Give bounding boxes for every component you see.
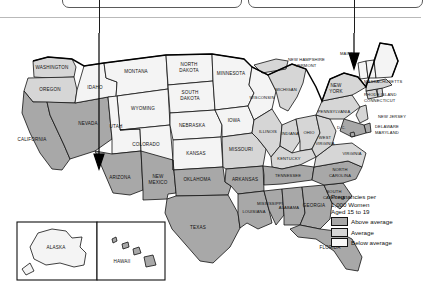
label-west-virginia-2: VIRGINIA: [315, 141, 334, 146]
label-idaho: IDAHO: [87, 85, 103, 90]
label-new-hampshire: NEW HAMPSHIRE: [288, 57, 325, 62]
legend-label-average: Average: [351, 229, 374, 236]
label-maine: MAINE: [340, 51, 354, 56]
callout-box-left[interactable]: [62, 0, 242, 8]
label-hawaii: HAWAII: [114, 259, 131, 264]
label-north-carolina-1: NORTH: [332, 167, 347, 172]
label-california: CALIFORNIA: [17, 137, 47, 142]
label-new-jersey: NEW JERSEY: [378, 114, 406, 119]
label-nevada: NEVADA: [78, 121, 98, 126]
state-dc: [350, 132, 355, 137]
legend-item-average[interactable]: Average: [331, 228, 419, 237]
label-louisiana: LOUISIANA: [242, 209, 265, 214]
label-indiana: INDIANA: [281, 131, 299, 136]
label-maryland: MARYLAND: [375, 130, 399, 135]
label-north-dakota-2: DAKOTA: [179, 68, 199, 73]
label-montana: MONTANA: [124, 69, 148, 74]
label-dc: D.C.: [337, 125, 346, 130]
label-north-carolina-2: CAROLINA: [329, 173, 351, 178]
label-wyoming: WYOMING: [131, 106, 155, 111]
label-north-dakota-1: NORTH: [181, 62, 198, 67]
label-new-york-1: NEW: [330, 83, 342, 88]
legend-title-line3: Aged 15 to 19: [331, 208, 419, 216]
label-delaware: DELAWARE: [375, 124, 399, 129]
label-south-dakota-1: SOUTH: [182, 90, 199, 95]
label-kansas: KANSAS: [186, 151, 206, 156]
label-michigan: MICHIGAN: [275, 87, 297, 92]
legend-label-above-average: Above average: [351, 218, 393, 225]
label-oklahoma: OKLAHOMA: [183, 177, 211, 182]
label-oregon: OREGON: [39, 87, 60, 92]
legend-swatch-above-average: [331, 217, 348, 226]
legend-swatch-average: [331, 228, 348, 237]
label-washington: WASHINGTON: [36, 65, 69, 70]
label-georgia: GEORGIA: [303, 203, 326, 208]
legend-title: Pregnancies per 1,000 Women Aged 15 to 1…: [331, 193, 419, 216]
us-choropleth-map: WASHINGTON OREGON CALIFORNIA NEVADA IDAH…: [0, 33, 421, 301]
label-alabama: ALABAMA: [279, 205, 300, 210]
legend-item-below-average[interactable]: Below average: [331, 238, 419, 247]
label-iowa: IOWA: [228, 118, 241, 123]
hawaii-inset-frame: [97, 222, 165, 280]
label-south-dakota-2: DAKOTA: [180, 96, 200, 101]
label-virginia: VIRGINIA: [342, 151, 361, 156]
leader-line-maine: [354, 0, 355, 33]
label-ohio: OHIO: [303, 130, 314, 135]
label-arkansas: ARKANSAS: [232, 177, 258, 182]
map-legend: Pregnancies per 1,000 Women Aged 15 to 1…: [331, 193, 419, 247]
legend-swatch-below-average: [331, 238, 348, 247]
label-minnesota: MINNESOTA: [217, 71, 246, 76]
label-illinois: ILLINOIS: [259, 129, 277, 134]
label-arizona: ARIZONA: [109, 175, 131, 180]
label-pennsylvania: PENNSYLVANIA: [318, 109, 351, 114]
label-massachusetts: MASSACHUSETTS: [364, 79, 402, 84]
label-texas: TEXAS: [190, 225, 206, 230]
label-rhode-island: RHODE ISLAND: [364, 92, 397, 97]
legend-label-below-average: Below average: [351, 239, 392, 246]
label-wisconsin: WISCONSIN: [249, 95, 274, 100]
legend-item-above-average[interactable]: Above average: [331, 217, 419, 226]
callout-box-right[interactable]: [248, 0, 423, 8]
label-kentucky: KENTUCKY: [277, 156, 301, 161]
label-vermont: VERMONT: [295, 63, 317, 68]
leader-line-arizona: [99, 0, 100, 33]
label-new-york-2: YORK: [329, 89, 343, 94]
legend-title-line2: 1,000 Women: [331, 201, 419, 209]
label-nebraska: NEBRASKA: [179, 123, 206, 128]
label-connecticut: CONNECTICUT: [364, 98, 396, 103]
label-utah: UTAH: [110, 124, 123, 129]
callout-strip: [0, 0, 421, 22]
label-new-mexico-1: NEW: [152, 174, 164, 179]
label-missouri: MISSOURI: [229, 147, 253, 152]
header-divider: [0, 17, 421, 18]
label-new-mexico-2: MEXICO: [148, 180, 167, 185]
label-alaska: ALASKA: [47, 245, 67, 250]
legend-title-line1: Pregnancies per: [331, 193, 419, 201]
label-tennessee: TENNESSEE: [275, 173, 301, 178]
label-colorado: COLORADO: [132, 142, 160, 147]
label-west-virginia-1: WEST: [319, 135, 332, 140]
